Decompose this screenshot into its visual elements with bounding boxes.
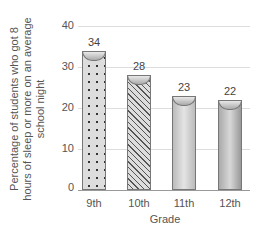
- y-tick-40: 40: [54, 19, 74, 31]
- value-label-9th: 34: [79, 36, 109, 48]
- x-axis-line: [78, 190, 250, 191]
- y-tick-10: 10: [54, 142, 74, 154]
- gridline-40: [78, 26, 250, 27]
- y-tick-20: 20: [54, 101, 74, 113]
- bar-cap: [127, 75, 151, 85]
- y-axis-title: Percentage of students who got 8 hours o…: [8, 14, 58, 204]
- x-tick-9th: 9th: [74, 197, 114, 209]
- bar-9th: [82, 51, 106, 190]
- bar-cap: [218, 100, 242, 110]
- value-label-11th: 23: [169, 81, 199, 93]
- bar-cap: [172, 96, 196, 106]
- x-tick-10th: 10th: [119, 197, 159, 209]
- bar-12th: [218, 100, 242, 190]
- bar-cap: [82, 51, 106, 61]
- y-tick-0: 0: [54, 181, 74, 193]
- value-label-10th: 28: [124, 60, 154, 72]
- x-tick-11th: 11th: [164, 197, 204, 209]
- bar-10th: [127, 75, 151, 190]
- y-tick-30: 30: [54, 60, 74, 72]
- x-tick-12th: 12th: [210, 197, 250, 209]
- value-label-12th: 22: [215, 85, 245, 97]
- x-axis-title: Grade: [135, 213, 195, 225]
- bar-11th: [172, 96, 196, 190]
